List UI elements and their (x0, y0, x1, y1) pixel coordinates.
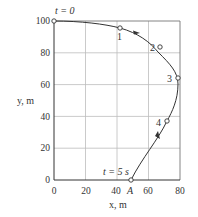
point-A (129, 178, 133, 182)
point-start (52, 19, 56, 23)
label-t0: t = 0 (55, 5, 75, 16)
svg-text:0: 0 (52, 186, 57, 196)
svg-text:100: 100 (36, 16, 51, 26)
svg-text:80: 80 (41, 48, 51, 58)
label-point-1: 1 (117, 31, 122, 42)
svg-text:60: 60 (41, 80, 51, 90)
label-A: A (126, 185, 134, 196)
svg-text:40: 40 (41, 112, 51, 122)
trajectory-diagram: t = 0 1 2 3 4 t = 5 s A 100 80 60 40 20 … (0, 0, 198, 217)
x-axis-label: x, m (109, 199, 127, 210)
label-point-3: 3 (167, 73, 172, 84)
point-2 (158, 45, 162, 49)
svg-text:40: 40 (111, 186, 121, 196)
svg-text:60: 60 (143, 186, 153, 196)
point-4 (165, 119, 169, 123)
svg-text:20: 20 (81, 186, 91, 196)
x-tick-labels: 0 20 40 60 80 (52, 186, 185, 196)
y-tick-labels: 100 80 60 40 20 0 (36, 16, 51, 185)
label-t5: t = 5 s (103, 166, 129, 177)
svg-text:0: 0 (45, 175, 50, 185)
y-axis-label: y, m (17, 95, 34, 106)
label-point-4: 4 (156, 117, 161, 128)
point-3 (176, 76, 180, 80)
label-point-2: 2 (150, 42, 155, 53)
point-1 (118, 26, 122, 30)
trajectory-points (52, 19, 180, 182)
svg-text:80: 80 (175, 186, 185, 196)
svg-text:20: 20 (41, 143, 51, 153)
